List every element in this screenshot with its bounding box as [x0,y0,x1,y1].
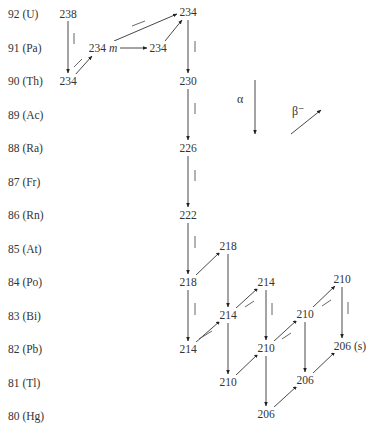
node-bi210: 210 [295,307,314,321]
beta-arrow-tl210-pb210 [235,354,258,376]
node-pb214: 214 [178,342,197,356]
beta-arrow-pb214-bi214 [195,321,220,343]
metastable-marker: m [109,42,117,54]
node-u234: 234 [178,5,197,19]
node-pa234m: 234 m [88,41,118,55]
beta-arrow-pb210-bi210 [273,320,297,342]
node-po218: 218 [178,275,197,289]
beta-arrow-th234-pa234m [75,56,92,75]
beta-arrow-po218-at218 [195,252,220,276]
node-u238: 238 [58,7,77,21]
node-th234: 234 [58,74,77,88]
node-pb210: 210 [256,341,275,355]
node-ra226: 226 [178,141,197,155]
node-tl210: 210 [218,375,237,389]
node-bi214: 214 [218,308,237,322]
node-tl206: 206 [295,373,314,387]
node-rn222: 222 [178,208,197,222]
node-hg206: 206 [256,407,275,421]
node-pb206: 206 (s) [333,339,367,353]
node-pa234: 234 [148,41,167,55]
legend-alpha-label: α [237,92,243,106]
beta-arrow-tl206-pb206 [312,352,335,374]
beta-arrow-hg206-tl206 [273,386,297,408]
legend-beta-label: β⁻ [292,104,304,118]
decay-chain-diagram: 92 (U) 91 (Pa) 90 (Th) 89 (Ac) 88 (Ra) 8… [0,0,370,431]
half-life-ticks [74,21,348,339]
node-at218: 218 [218,239,237,253]
node-po210: 210 [332,272,351,286]
beta-arrow-pa234m-u234 [114,14,177,41]
beta-arrow-pa234-u234 [165,20,182,41]
node-th230: 230 [178,74,197,88]
node-po214: 214 [256,275,275,289]
